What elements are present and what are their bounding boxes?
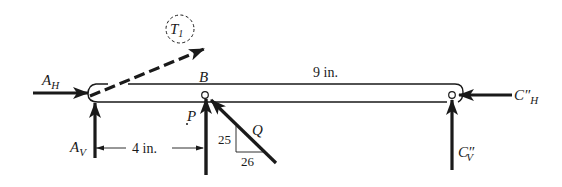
label-av: AV: [69, 139, 87, 158]
svg-text:26: 26: [241, 154, 255, 169]
pin-b: [202, 92, 209, 99]
label-cv: C″V: [458, 144, 475, 163]
label-b: B: [199, 69, 208, 85]
svg-text:4 in.: 4 in.: [132, 141, 157, 156]
beam: [88, 84, 463, 102]
dimension-9in: 9 in.: [313, 65, 338, 80]
label-q: Q: [252, 122, 263, 138]
label-ah: AH: [41, 72, 60, 91]
force-t1-arrow: [90, 49, 204, 96]
svg-text:25: 25: [218, 132, 231, 147]
label-ch: C″H: [514, 87, 539, 106]
free-body-diagram: AH T1 B 9 in. AV 4 in. P Q 25 26 C″H C″V: [0, 0, 562, 187]
label-p: P: [186, 108, 196, 124]
p-dot: [186, 123, 188, 125]
label-t1: T1: [170, 21, 183, 39]
dimension-4in: 4 in.: [96, 141, 204, 156]
pin-c: [449, 92, 456, 99]
